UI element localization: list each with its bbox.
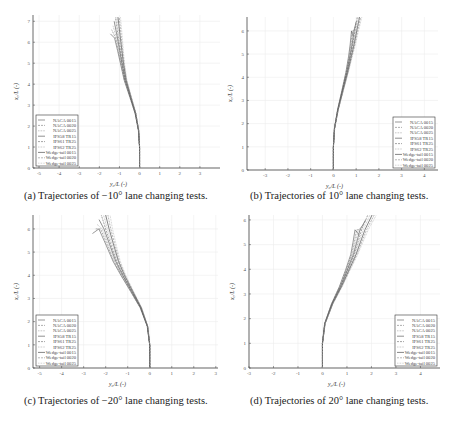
y-tick-label: 1 [244,341,247,346]
x-axis-label: y₀/L (-) [327,381,345,388]
legend-label: NACA 0025 [412,328,436,333]
y-tick-label: 5 [244,242,247,247]
trajectory-line [322,215,372,368]
x-tick-label: 2 [370,371,373,376]
y-axis-label: x₀/L (-) [229,283,236,301]
x-tick-label: -1 [296,371,301,376]
legend-label: IFS61 TR25 [412,339,435,344]
trajectory-line [322,230,359,368]
chart-d: -3-2-1012340123456y₀/L (-)x₀/L (-)NACA 0… [0,0,452,400]
y-tick-label: 3 [244,292,247,297]
trajectory-line [322,215,369,368]
x-tick-label: 4 [419,371,422,376]
x-tick-label: -3 [247,371,252,376]
panel-d: -3-2-1012340123456y₀/L (-)x₀/L (-)NACA 0… [0,0,452,422]
trajectory-line [322,225,363,368]
legend-label: NACA 0015 [412,318,436,323]
trajectory-line [322,215,367,368]
legend-label: IFS62 TR25 [412,345,435,350]
legend-label: IFS58 TR15 [412,334,435,339]
x-tick-label: -2 [271,371,276,376]
trajectory-line [322,215,376,368]
y-tick-label: 6 [244,218,247,223]
x-tick-label: 3 [395,371,398,376]
legend-label: Wedge-tail 0020 [405,355,436,360]
trajectory-line [322,215,374,368]
legend-label: Wedge-tail 0015 [405,350,436,355]
y-tick-label: 4 [244,267,247,272]
legend-label: Wedge-tail 0025 [405,361,436,366]
y-tick-label: 2 [244,316,247,321]
x-tick-label: 0 [321,371,324,376]
caption-d: (d) Trajectories of 20° lane changing te… [250,395,428,406]
legend: NACA 0015NACA 0020NACA 0025IFS58 TR15IFS… [395,315,437,366]
x-tick-label: 1 [346,371,349,376]
legend-label: NACA 0020 [412,323,436,328]
